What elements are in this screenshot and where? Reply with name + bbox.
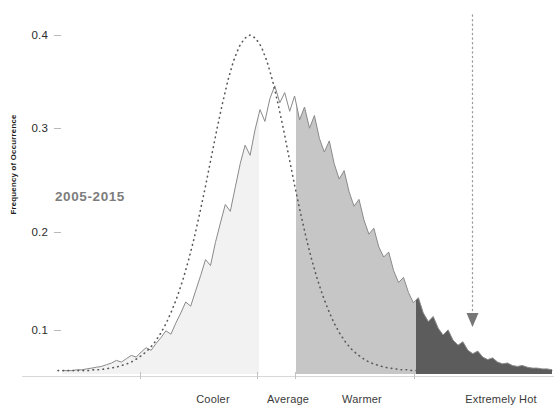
x-tick-mark-cooler (140, 372, 141, 379)
annotation-arrow-head (467, 313, 479, 327)
x-tick-label-warmer: Warmer (342, 393, 382, 405)
series-annotation-2005-2015: 2005-2015 (55, 189, 125, 204)
y-tick-label-0.2: 0.2 (14, 226, 48, 238)
annotation-arrow-extremely-hot (467, 15, 479, 327)
x-tick-mark-warmer (295, 372, 296, 379)
plot-canvas (0, 0, 554, 410)
y-tick-label-0.4: 0.4 (14, 29, 48, 41)
x-tick-label-average: Average (267, 393, 309, 405)
x-tick-label-cooler: Cooler (196, 393, 230, 405)
y-tick-mark-0.3 (54, 128, 61, 129)
y-tick-mark-0.4 (54, 35, 61, 36)
y-tick-label-0.1: 0.1 (14, 324, 48, 336)
shaded-region-warmer (62, 86, 552, 374)
y-tick-label-0.3: 0.3 (14, 122, 48, 134)
x-tick-mark-average (257, 372, 258, 379)
y-tick-mark-0.1 (54, 330, 61, 331)
climate-distribution-chart: Frequency of Occurrence 0.4 0.3 0.2 0.1 … (0, 0, 554, 410)
y-tick-mark-0.2 (54, 232, 61, 233)
x-tick-label-extremely-hot: Extremely Hot (465, 393, 537, 405)
x-tick-mark-extremely-hot (414, 372, 415, 379)
